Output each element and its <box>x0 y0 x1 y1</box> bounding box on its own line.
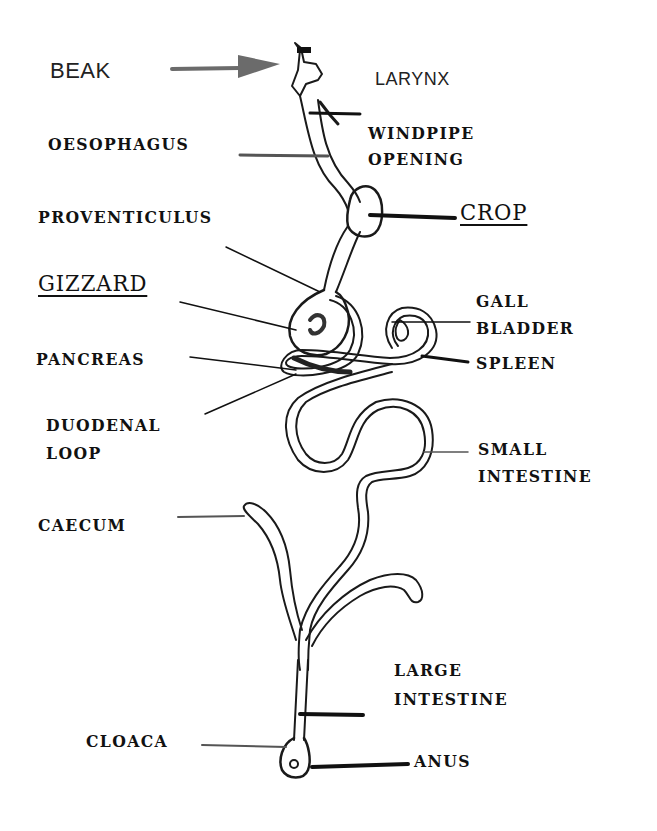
label-crop: CROP <box>460 201 527 223</box>
label-windpipe-opening-line1: WINDPIPE <box>368 120 475 146</box>
label-duodenal-loop-line2: LOOP <box>46 440 102 466</box>
label-small-intestine-line2: INTESTINE <box>478 463 592 489</box>
gizzard-organ <box>289 290 349 355</box>
label-cloaca: CLOACA <box>86 730 168 752</box>
label-large-intestine-line1: LARGE <box>394 657 462 683</box>
label-gall-bladder-line2: BLADDER <box>476 315 574 341</box>
label-beak: BEAK <box>50 60 111 82</box>
label-larynx: LARYNX <box>375 68 450 90</box>
label-small-intestine-line1: SMALL <box>478 436 548 462</box>
label-caecum: CAECUM <box>38 514 126 536</box>
proventiculus-organ <box>324 226 360 292</box>
beak-organ <box>292 43 322 96</box>
label-proventiculus: PROVENTICULUS <box>38 206 213 228</box>
beak-arrow-icon <box>172 55 280 78</box>
cloaca-organ <box>281 738 310 778</box>
label-gall-bladder-line1: GALL <box>476 288 529 314</box>
label-large-intestine-line2: INTESTINE <box>394 686 508 712</box>
label-windpipe-opening-line2: OPENING <box>368 146 464 172</box>
label-anus: ANUS <box>414 750 471 772</box>
large-intestine-organ <box>294 660 308 740</box>
crop-organ <box>347 186 382 236</box>
label-gizzard: GIZZARD <box>38 272 147 294</box>
label-spleen: SPLEEN <box>476 352 556 374</box>
label-duodenal-loop-line1: DUODENAL <box>46 412 161 438</box>
label-oesophagus: OESOPHAGUS <box>48 133 189 155</box>
label-pancreas: PANCREAS <box>36 348 145 370</box>
